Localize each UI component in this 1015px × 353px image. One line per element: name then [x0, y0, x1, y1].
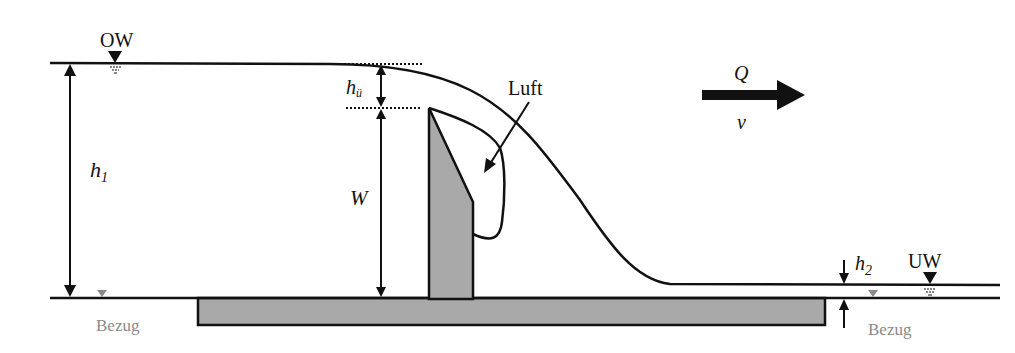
weir-height-dimension-arrow — [376, 109, 386, 297]
h-overflow-dimension-arrow — [376, 65, 386, 107]
foundation-slab — [198, 298, 825, 325]
h-overflow-label: hü — [346, 76, 362, 100]
h2-label: h2 — [855, 252, 872, 278]
tailwater-level-icon — [923, 272, 937, 295]
flow-direction-arrow — [702, 80, 805, 110]
datum-label-right: Bezug — [868, 320, 912, 339]
weir-overflow-diagram: OW UW h1 hü W h2 Luft Q v Bezug Bezug — [0, 0, 1015, 353]
discharge-label: Q — [734, 62, 749, 84]
velocity-label: v — [737, 111, 746, 133]
h2-dimension-arrows — [839, 260, 849, 328]
weir-body — [429, 108, 473, 299]
datum-label-left: Bezug — [96, 316, 140, 335]
datum-marker-right-icon — [868, 290, 878, 297]
datum-marker-left-icon — [97, 290, 107, 297]
headwater-label: OW — [100, 29, 133, 51]
weir-height-label: W — [350, 186, 370, 210]
h1-label: h1 — [90, 157, 108, 185]
tailwater-label: UW — [908, 250, 941, 272]
air-label: Luft — [508, 77, 543, 99]
h1-dimension-arrow — [64, 64, 76, 297]
